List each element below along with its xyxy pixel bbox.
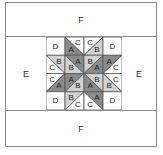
- patch-label: D: [110, 96, 116, 105]
- patch-label: B: [56, 57, 61, 66]
- patch-label: C: [49, 75, 55, 84]
- patch-label: A: [68, 45, 74, 54]
- patch-label: A: [94, 93, 100, 102]
- patch-label: B: [68, 93, 73, 102]
- border-left-e: E: [6, 37, 46, 110]
- patch-label: A: [94, 63, 100, 72]
- patch-label: A: [87, 81, 93, 90]
- patch-label: B: [87, 57, 92, 66]
- patch-label: C: [113, 75, 119, 84]
- patch-label: B: [68, 63, 73, 72]
- patch-label: C: [75, 100, 81, 109]
- patch-label: C: [75, 38, 81, 47]
- patch-label: C: [49, 63, 55, 72]
- border-bottom-label: F: [78, 124, 84, 134]
- patch-label: A: [106, 57, 112, 66]
- patch-label: C: [87, 100, 93, 109]
- patch-label: B: [94, 75, 99, 84]
- star-grid-svg: DCACBDBCABBAACCAABBACBDBCACD: [46, 37, 122, 110]
- quilt-block-frame: F E DCACBDBCABBAACCAABBACBDBCACD E F: [5, 2, 157, 147]
- patch-label: B: [94, 45, 99, 54]
- border-top-f: F: [6, 3, 156, 37]
- patch-label: D: [53, 42, 59, 51]
- patch-label: C: [87, 38, 93, 47]
- border-top-label: F: [78, 15, 84, 25]
- patch-label: A: [68, 75, 74, 84]
- patch-label: B: [106, 81, 111, 90]
- patch-label: D: [110, 42, 116, 51]
- patch-label: A: [56, 81, 62, 90]
- patch-label: A: [75, 57, 81, 66]
- star-center-grid: DCACBDBCABBAACCAABBACBDBCACD: [46, 37, 122, 110]
- border-left-label: E: [23, 69, 29, 79]
- patch-label: C: [113, 63, 119, 72]
- border-right-label: E: [136, 69, 142, 79]
- border-right-e: E: [122, 37, 156, 110]
- patch-label: D: [53, 96, 59, 105]
- border-bottom-f: F: [6, 110, 156, 146]
- patch-label: B: [75, 81, 80, 90]
